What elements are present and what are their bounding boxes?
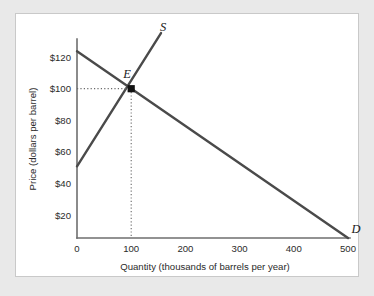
- x-tick-label-100: 100: [123, 243, 139, 254]
- x-tick-label-0: 0: [74, 243, 79, 254]
- x-tick-label-300: 300: [232, 243, 248, 254]
- equilibrium-point-marker: [128, 85, 135, 92]
- y-axis-title: Price (dollars per barrel): [27, 88, 38, 191]
- supply-demand-chart: $120 $100 $80 $60 $40 $20 0 100 200 300 …: [0, 0, 374, 296]
- figure-frame: $120 $100 $80 $60 $40 $20 0 100 200 300 …: [0, 0, 374, 296]
- y-tick-label-100: $100: [50, 83, 71, 94]
- x-axis-title: Quantity (thousands of barrels per year): [120, 261, 290, 272]
- y-tick-label-80: $80: [55, 115, 71, 126]
- supply-curve-label: S: [160, 20, 167, 34]
- x-tick-label-400: 400: [286, 243, 302, 254]
- y-tick-label-120: $120: [50, 52, 71, 63]
- y-tick-label-40: $40: [55, 178, 71, 189]
- y-tick-label-60: $60: [55, 146, 71, 157]
- x-tick-label-500: 500: [340, 243, 356, 254]
- equilibrium-point-label: E: [122, 67, 131, 81]
- x-tick-label-200: 200: [177, 243, 193, 254]
- y-tick-label-20: $20: [55, 210, 71, 221]
- demand-curve: [77, 51, 348, 238]
- demand-curve-label: D: [350, 222, 360, 236]
